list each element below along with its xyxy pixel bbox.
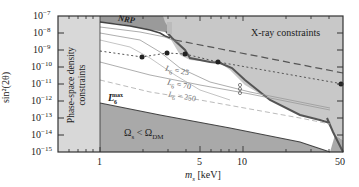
marker — [165, 51, 170, 56]
x-tick-label: 50 — [335, 156, 345, 167]
marker — [216, 60, 221, 65]
y-tick-label: 10−15 — [31, 145, 52, 157]
l6-max-label: L6max — [108, 92, 128, 105]
xray-label: X-ray constraints — [251, 27, 320, 38]
y-tick-label: 10−9 — [33, 43, 50, 55]
y-tick-label: 10−8 — [33, 26, 50, 38]
x-tick-label: 1 — [97, 156, 102, 167]
nrp-notch — [167, 22, 172, 34]
x-axis-label: ms [keV] — [185, 169, 221, 183]
y-tick-label: 10−11 — [31, 77, 52, 89]
y-tick-label: 10−7 — [33, 9, 50, 21]
marker — [140, 55, 145, 60]
x-tick-label: 5 — [197, 156, 202, 167]
phase-space-label: Phase-space density constraints — [66, 30, 88, 140]
y-axis-label: sin²(2θ) — [0, 72, 11, 103]
nrp-label: NRP — [117, 13, 135, 25]
marker — [183, 52, 188, 57]
y-tick-label: 10−12 — [31, 94, 52, 106]
y-tick-label: 10−13 — [31, 111, 52, 123]
y-tick-label: 10−10 — [31, 60, 52, 72]
y-tick-label: 10−14 — [31, 128, 52, 140]
omega-label: Ωs < ΩDM — [124, 127, 164, 141]
x-tick-label: 10 — [237, 156, 247, 167]
